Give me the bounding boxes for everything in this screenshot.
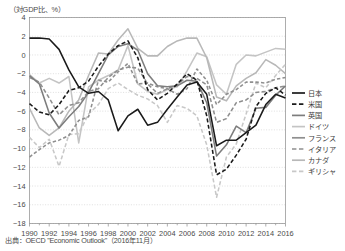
- legend-label: 米国: [308, 100, 322, 109]
- y-tick-label: −16: [13, 200, 26, 209]
- y-tick-label: −8: [17, 125, 25, 134]
- legend-label: イタリア: [308, 145, 336, 154]
- chart-container: （対GDP比、%） 420−2−4−6−8−10−12−14−16−18 199…: [0, 0, 345, 251]
- x-tick-label: 2004: [159, 229, 175, 238]
- line-chart-plot: 420−2−4−6−8−10−12−14−16−18 1990199219941…: [0, 0, 345, 251]
- legend-label: 日本: [308, 89, 322, 98]
- legend-label: ギリシャ: [308, 167, 336, 176]
- y-tick-label: −10: [13, 144, 26, 153]
- legend-label: フランス: [308, 134, 336, 143]
- y-tick-label: 0: [21, 51, 25, 60]
- x-tick-label: 2006: [179, 229, 195, 238]
- legend-label: ドイツ: [308, 122, 329, 131]
- y-tick-label: −2: [17, 69, 25, 78]
- x-tick-label: 2008: [199, 229, 215, 238]
- x-tick-label: 2010: [218, 229, 234, 238]
- plot-border: [30, 18, 286, 224]
- gridlines: [30, 18, 286, 224]
- series-line-米国: [30, 41, 286, 175]
- plot-frame: [30, 18, 286, 224]
- legend-label: カナダ: [308, 156, 329, 165]
- y-tick-label: −6: [17, 107, 25, 116]
- y-tick-label: 2: [21, 32, 25, 41]
- chart-legend: 日本米国英国ドイツフランスイタリアカナダギリシャ: [292, 89, 336, 176]
- y-tick-label: −12: [13, 163, 26, 172]
- y-tick-label: −4: [17, 88, 25, 97]
- y-tick-label: −18: [13, 219, 26, 228]
- x-tick-label: 2016: [277, 229, 293, 238]
- y-tick-label: −14: [13, 182, 26, 191]
- y-tick-label: 4: [21, 13, 25, 22]
- y-axis-ticks: 420−2−4−6−8−10−12−14−16−18: [13, 13, 26, 228]
- x-tick-label: 2014: [258, 229, 274, 238]
- x-tick-label: 2012: [238, 229, 254, 238]
- data-series-group: [30, 29, 286, 198]
- source-note: 出典：OECD "Economic Outlook"（2016年11月）: [5, 235, 156, 245]
- legend-label: 英国: [308, 111, 322, 120]
